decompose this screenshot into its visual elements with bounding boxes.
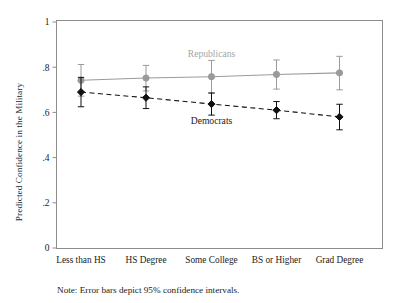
figure-container: Predicted Confidence in the Military 0.2… (0, 0, 393, 303)
y-tick-label: .6 (42, 108, 49, 118)
data-point-marker (143, 75, 149, 81)
data-point-marker (336, 70, 342, 76)
y-tick-layer: 0.2.4.6.81 (42, 17, 56, 253)
data-point-marker (273, 107, 280, 114)
data-point-marker (208, 100, 215, 107)
data-point-marker (336, 113, 343, 120)
x-tick-label: BS or Higher (252, 255, 302, 265)
data-point-marker (77, 88, 84, 95)
y-tick-label: .2 (42, 198, 49, 208)
series-annotation-democrats: Democrats (191, 115, 233, 126)
data-point-marker (208, 74, 214, 80)
y-tick-label: .4 (42, 153, 49, 163)
x-tick-label: HS Degree (125, 255, 166, 265)
series-republicans (78, 56, 343, 96)
x-tick-layer: Less than HSHS DegreeSome CollegeBS or H… (56, 255, 363, 265)
y-tick-label: 0 (45, 243, 50, 253)
plot-area-wrapper: 0.2.4.6.81 Less than HSHS DegreeSome Col… (0, 0, 393, 303)
x-tick-label: Grad Degree (316, 255, 364, 265)
scatter-line-chart: 0.2.4.6.81 Less than HSHS DegreeSome Col… (0, 0, 393, 303)
x-tick-label: Less than HS (56, 255, 106, 265)
data-point-marker (142, 94, 149, 101)
data-point-marker (273, 71, 279, 77)
chart-note: Note: Error bars depict 95% confidence i… (57, 285, 239, 295)
x-tick-label: Some College (185, 255, 237, 265)
y-tick-label: .8 (42, 63, 49, 73)
y-tick-label: 1 (45, 17, 50, 27)
series-annotation-republicans: Republicans (188, 48, 236, 59)
